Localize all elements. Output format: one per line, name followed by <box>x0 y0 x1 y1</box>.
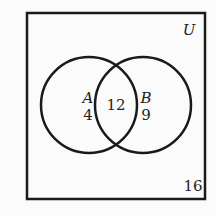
intersection-count: 12 <box>106 96 125 114</box>
universe-label: U <box>183 21 197 39</box>
set-a-only-count: 4 <box>83 106 93 124</box>
outside-count: 16 <box>183 177 202 195</box>
venn-diagram: U A 4 12 B 9 16 <box>0 0 216 216</box>
set-a-label: A <box>81 89 94 107</box>
set-b-label: B <box>139 89 151 107</box>
set-b-only-count: 9 <box>141 106 151 124</box>
